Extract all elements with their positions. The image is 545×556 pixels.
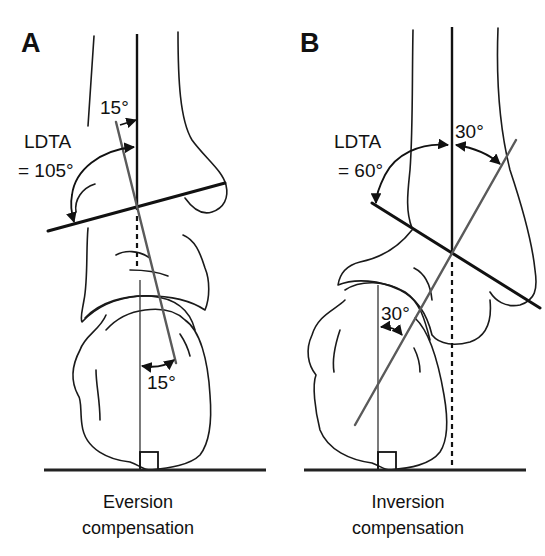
calcaneus-a: [73, 309, 211, 470]
calcaneus-b-fold2: [414, 348, 420, 372]
caption-a-line2: compensation: [82, 518, 194, 538]
heel-angle-a: 15°: [147, 372, 176, 393]
ldta-label-a: LDTA: [24, 131, 71, 152]
tibia-b-right-outline: [490, 28, 536, 306]
caption-b-line2: compensation: [352, 518, 464, 538]
joint-line-b: [372, 203, 540, 308]
angle-arc-b-top: [456, 145, 500, 164]
panel-a-label: A: [21, 28, 41, 58]
caption-b-line1: Inversion: [371, 492, 444, 512]
panel-b: B 30° LDTA = 60° 30° Inversion co: [300, 27, 540, 538]
panel-b-label: B: [300, 28, 320, 58]
caption-a-line1: Eversion: [103, 492, 173, 512]
calcaneus-a-fold: [96, 370, 100, 420]
talus-a-inner2: [130, 270, 168, 276]
tibia-a-left-outline: [88, 36, 94, 126]
calcaneus-a-fold2: [180, 334, 190, 356]
angle-arc-b-heel: [381, 327, 402, 335]
tibial-angle-a: 15°: [100, 97, 129, 118]
tilted-axis-a: [116, 122, 176, 363]
ldta-value-b: = 60°: [338, 160, 383, 181]
talus-a-inner: [116, 252, 150, 258]
angle-arc-a-heel: [142, 360, 174, 367]
ldta-value-a: = 105°: [18, 160, 74, 181]
tibia-b-left-outline: [408, 30, 413, 228]
panel-a: A 15° LDTA = 105° 15°: [18, 28, 266, 538]
ldta-arc-b: [376, 145, 448, 203]
tibia-a-distal: [76, 184, 95, 212]
ldta-label-b: LDTA: [334, 131, 381, 152]
heel-angle-b: 30°: [381, 303, 410, 324]
talus-b: [338, 230, 490, 344]
calcaneus-b-fold: [333, 330, 340, 372]
ankle-alignment-diagram: A 15° LDTA = 105° 15°: [0, 0, 545, 556]
tibial-angle-b: 30°: [455, 121, 484, 142]
angle-arc-a-top: [120, 120, 136, 125]
